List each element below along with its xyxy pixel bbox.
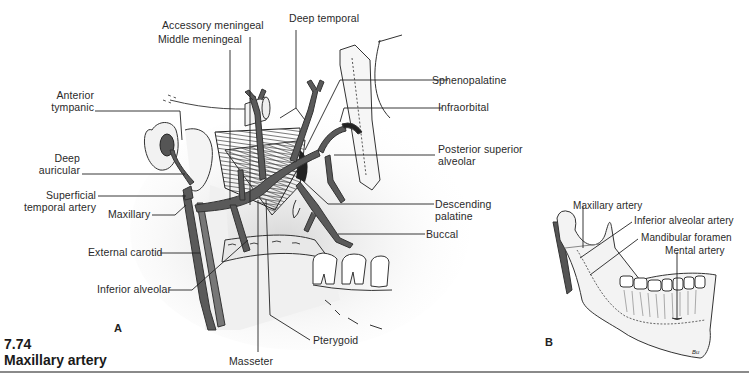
label-dp-line1: Descending	[435, 198, 491, 210]
label-deep-temporal: Deep temporal	[289, 12, 359, 24]
label-psa-line2: alveolar	[438, 155, 476, 167]
panel-a-letter: A	[114, 322, 122, 334]
label-middle-meningeal: Middle meningeal	[158, 33, 242, 45]
label-buccal: Buccal	[426, 228, 458, 240]
figure-title: Maxillary artery	[4, 352, 107, 368]
label-sta-line1: Superficial	[46, 189, 96, 201]
label-deep-auricular-line1: Deep	[54, 152, 80, 164]
label-infraorbital: Infraorbital	[438, 101, 489, 113]
maxillary-artery-illustration	[0, 0, 749, 376]
label-deep-auricular: Deep auricular	[30, 152, 80, 176]
label-anterior-tympanic-line1: Anterior	[56, 89, 94, 101]
label-sta-line2: temporal artery	[24, 201, 96, 213]
label-psa-line1: Posterior superior	[438, 143, 523, 155]
label-external-carotid: External carotid	[88, 246, 163, 258]
label-posterior-superior-alveolar: Posterior superior alveolar	[438, 143, 523, 167]
label-inferior-alveolar: Inferior alveolar	[97, 283, 171, 295]
label-descending-palatine: Descending palatine	[435, 198, 491, 222]
label-b-inferior-alveolar-artery: Inferior alveolar artery	[634, 215, 734, 227]
figure-number: 7.74	[4, 336, 31, 352]
label-masseter: Masseter	[229, 355, 273, 367]
label-pterygoid: Pterygoid	[313, 334, 358, 346]
label-superficial-temporal-artery: Superficial temporal artery	[10, 189, 96, 213]
artist-signature: Bu	[692, 346, 700, 358]
label-sphenopalatine: Sphenopalatine	[432, 74, 506, 86]
label-b-mandibular-foramen: Mandibular foramen	[641, 232, 732, 244]
label-dp-line2: palatine	[435, 210, 473, 222]
label-maxillary: Maxillary	[108, 208, 150, 220]
label-b-mental-artery: Mental artery	[665, 245, 725, 257]
label-anterior-tympanic: Anterior tympanic	[50, 89, 94, 113]
panel-a-drawing	[130, 35, 470, 350]
label-anterior-tympanic-line2: tympanic	[51, 101, 94, 113]
label-accessory-meningeal: Accessory meningeal	[162, 19, 264, 31]
panel-b-letter: B	[545, 336, 553, 348]
label-deep-auricular-line2: auricular	[39, 164, 80, 176]
label-b-maxillary-artery: Maxillary artery	[573, 200, 642, 212]
